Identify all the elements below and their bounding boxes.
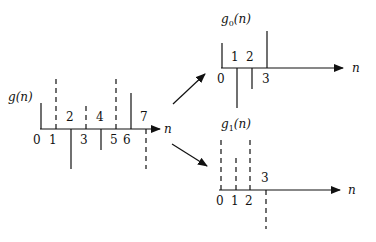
odd-index-2: 2 bbox=[245, 194, 253, 208]
even-index-0: 0 bbox=[217, 72, 225, 86]
index-5: 5 bbox=[110, 133, 118, 147]
even-index-3: 3 bbox=[262, 72, 270, 86]
index-1: 1 bbox=[49, 133, 57, 147]
odd-index-3: 3 bbox=[261, 171, 269, 185]
index-0: 0 bbox=[33, 133, 41, 147]
main-axis-label: n bbox=[164, 122, 172, 136]
index-6: 6 bbox=[123, 133, 131, 147]
odd-axis-label: n bbox=[348, 183, 356, 197]
main-signal-plot: g(n) n 0 1 2 3 4 5 6 7 bbox=[8, 75, 172, 169]
odd-title: g1(n) bbox=[221, 117, 251, 133]
even-index-1: 1 bbox=[231, 50, 239, 64]
odd-index-1: 1 bbox=[231, 194, 239, 208]
index-3: 3 bbox=[80, 133, 88, 147]
even-axis-label: n bbox=[352, 61, 360, 75]
odd-signal-plot: g1(n) n 0 1 2 3 bbox=[216, 117, 356, 229]
arrow-to-even bbox=[173, 74, 205, 104]
index-7: 7 bbox=[140, 110, 148, 124]
arrow-to-odd bbox=[172, 144, 207, 166]
index-2: 2 bbox=[66, 110, 74, 124]
even-index-2: 2 bbox=[246, 50, 254, 64]
odd-index-0: 0 bbox=[216, 194, 224, 208]
even-signal-plot: g0(n) n 0 1 2 3 bbox=[217, 12, 360, 108]
even-title: g0(n) bbox=[221, 12, 251, 28]
index-4: 4 bbox=[96, 110, 104, 124]
decimation-diagram: g(n) n 0 1 2 3 4 5 6 7 g0(n) n 0 1 2 bbox=[0, 0, 376, 242]
main-title: g(n) bbox=[8, 90, 33, 104]
